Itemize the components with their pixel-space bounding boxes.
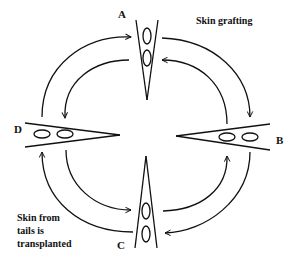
- note-line: transplanted: [17, 237, 71, 250]
- note-line: Skin from: [17, 211, 71, 224]
- node-label-b: B: [276, 135, 283, 146]
- graft-oval: [142, 226, 150, 242]
- graft-oval: [143, 28, 151, 44]
- node-label-c: C: [117, 240, 125, 251]
- arrow-c-to-b: [163, 156, 227, 211]
- arrow-d-to-a: [42, 37, 131, 117]
- note-line: tails is: [17, 224, 71, 237]
- arrow-b-to-c: [165, 152, 250, 233]
- graft-oval: [219, 133, 235, 141]
- tail-wedge-c: [135, 156, 157, 248]
- tail-wedge-b: [176, 124, 270, 150]
- diagram-title: Skin grafting: [196, 14, 252, 27]
- tail-wedge-a: [136, 20, 158, 100]
- graft-oval: [242, 133, 258, 141]
- node-label-a: A: [118, 9, 126, 20]
- arrow-a-to-b: [162, 38, 250, 117]
- arrow-b-to-a: [162, 60, 227, 124]
- arrow-d-to-c: [66, 150, 131, 210]
- graft-oval: [57, 130, 73, 138]
- graft-oval: [143, 50, 151, 66]
- graft-oval: [34, 130, 50, 138]
- tail-wedge-d: [25, 123, 120, 147]
- transplant-note: Skin from tails is transplanted: [17, 211, 71, 250]
- arrow-a-to-d: [65, 60, 129, 118]
- graft-oval: [142, 203, 150, 219]
- node-label-d: D: [14, 124, 22, 135]
